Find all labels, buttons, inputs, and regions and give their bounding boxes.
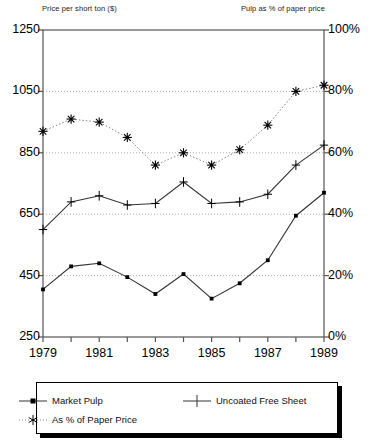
legend-label-uncoated-free-sheet: Uncoated Free Sheet	[216, 395, 306, 406]
x-axis-tick-label: 1987	[248, 346, 288, 360]
right-axis-tick-label: 40%	[328, 206, 373, 220]
series-as-of-paper-price	[38, 81, 328, 170]
right-axis-tick-label: 20%	[328, 268, 373, 282]
bottom-axis-ticks	[43, 337, 324, 342]
left-axis-tick-label: 650	[0, 206, 40, 220]
data-series-layer	[38, 81, 328, 301]
x-axis-tick-label: 1989	[304, 346, 344, 360]
legend-label-as-pct-of-paper-price: As % of Paper Price	[52, 414, 137, 425]
left-axis-tick-label: 1250	[0, 22, 40, 36]
legend-label-market-pulp: Market Pulp	[52, 395, 103, 406]
plot-area	[0, 0, 373, 380]
legend-marker-as-pct-of-paper-price	[18, 414, 48, 426]
legend-marker-uncoated-free-sheet	[182, 395, 212, 407]
left-axis-tick-label: 850	[0, 145, 40, 159]
right-axis-tick-label: 80%	[328, 83, 373, 97]
right-axis-tick-label: 60%	[328, 145, 373, 159]
chart-container: Price per short ton ($) Pulp as % of pap…	[0, 0, 373, 448]
right-axis-tick-label: 0%	[328, 329, 373, 343]
x-axis-tick-label: 1979	[23, 346, 63, 360]
left-axis-tick-label: 1050	[0, 83, 40, 97]
legend	[36, 382, 338, 434]
x-axis-tick-label: 1983	[135, 346, 175, 360]
right-axis-tick-label: 100%	[328, 22, 373, 36]
legend-marker-market-pulp	[18, 395, 48, 407]
series-market-pulp	[41, 191, 326, 301]
left-axis-tick-label: 250	[0, 329, 40, 343]
left-axis-tick-label: 450	[0, 268, 40, 282]
x-axis-tick-label: 1981	[79, 346, 119, 360]
right-axis-ticks	[324, 30, 329, 337]
x-axis-tick-label: 1985	[192, 346, 232, 360]
